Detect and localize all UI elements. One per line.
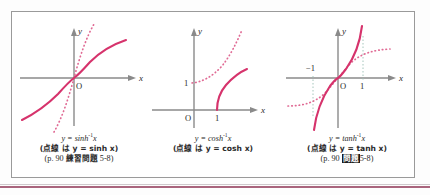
bottom-rule-light	[0, 184, 430, 185]
y-axis-label: y	[77, 26, 82, 36]
caption-sinh-inverse: y = sinh-1x (点線 は y = sinh x) (p. 90 練習問…	[12, 130, 146, 164]
caption-line-1: y = cosh-1x	[146, 130, 280, 144]
curve-cosh-inverse-solid	[217, 69, 247, 110]
y-axis-label: y	[197, 26, 202, 36]
y-axis-arrow	[191, 28, 197, 36]
caption-page-prefix: (p. 90	[321, 154, 342, 163]
panel-cosh-inverse: x y O 1 1 y = cosh-1x (点線 は y = cosh x)	[146, 12, 280, 177]
x-axis-label: x	[260, 105, 265, 115]
x-axis-arrow	[250, 107, 258, 113]
caption-line-2: (点線 は y = sinh x)	[12, 144, 146, 154]
plot-tanh-inverse: x y O −1 1	[280, 14, 414, 134]
x-axis-label: x	[398, 73, 403, 83]
caption-formula-arg: x	[361, 134, 365, 143]
caption-line-2: (点線 は y = cosh x)	[146, 144, 280, 154]
caption-jp-term-highlighted: 問題	[342, 154, 360, 163]
caption-cosh-inverse: y = cosh-1x (点線 は y = cosh x)	[146, 130, 280, 154]
caption-formula-arg: x	[93, 134, 97, 143]
origin-label: O	[76, 81, 82, 91]
caption-tanh-inverse: y = tanh-1x (点線 は y = tanh x) (p. 90 問題5…	[280, 130, 414, 164]
y-axis-arrow	[71, 28, 77, 36]
caption-line-2: (点線 は y = tanh x)	[280, 144, 414, 154]
curve-cosh-dotted	[192, 30, 242, 83]
x-axis-arrow	[128, 75, 136, 81]
x-tick-label-1: 1	[215, 113, 219, 123]
caption-formula-arg: x	[228, 134, 232, 143]
plot-sinh-inverse: x y O	[12, 14, 146, 134]
caption-formula-main: y = sinh	[61, 134, 88, 143]
caption-line-1: y = sinh-1x	[12, 130, 146, 144]
caption-page-prefix: (p. 90	[45, 154, 66, 163]
bottom-rule-accent	[0, 186, 430, 188]
y-axis-label: y	[341, 26, 346, 36]
caption-line-3: (p. 90 練習問題 5-8)	[12, 154, 146, 164]
figure-page: x y O y = sinh-1x (点線 は y = sinh x) (p. …	[0, 0, 430, 195]
caption-line-3: (p. 90 問題5-8)	[280, 154, 414, 164]
x-tick-label-1: 1	[360, 81, 364, 91]
caption-jp-term: 練習問題	[66, 154, 98, 163]
x-axis-label: x	[138, 73, 143, 83]
panel-tanh-inverse: x y O −1 1 y = tanh-1x (点線 は y = tanh x)…	[280, 12, 414, 177]
caption-page-suffix: 5-8)	[98, 154, 114, 163]
y-tick-label-1: 1	[184, 78, 188, 88]
caption-formula-main: y = tanh	[329, 134, 357, 143]
y-axis-arrow	[335, 28, 341, 36]
caption-page-suffix: 5-8)	[360, 154, 374, 163]
panel-sinh-inverse: x y O y = sinh-1x (点線 は y = sinh x) (p. …	[12, 12, 146, 177]
plot-cosh-inverse: x y O 1 1	[146, 14, 280, 134]
caption-line-1: y = tanh-1x	[280, 130, 414, 144]
panel-row: x y O y = sinh-1x (点線 は y = sinh x) (p. …	[12, 12, 414, 177]
x-axis-arrow	[388, 75, 396, 81]
origin-label: O	[185, 113, 191, 123]
x-tick-label-minus1: −1	[306, 63, 315, 73]
origin-label: O	[340, 81, 346, 91]
caption-formula-main: y = cosh	[195, 134, 223, 143]
